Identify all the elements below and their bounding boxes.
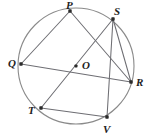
chord-P-Q xyxy=(21,11,70,64)
chord-S-T xyxy=(41,19,113,108)
point-label-p: P xyxy=(66,0,73,11)
vertex-dot-v xyxy=(105,115,108,118)
point-label-s: S xyxy=(114,6,120,17)
vertex-dot-s xyxy=(111,17,114,20)
geometry-canvas xyxy=(0,0,150,139)
point-label-q: Q xyxy=(8,58,16,69)
center-dot-o xyxy=(75,65,78,68)
chord-S-R xyxy=(113,19,131,82)
point-label-r: R xyxy=(136,77,143,88)
vertex-dot-t xyxy=(39,106,42,109)
chord-group xyxy=(21,11,131,117)
geometry-figure: PSQORTV xyxy=(0,0,150,139)
vertex-dot-q xyxy=(19,62,22,65)
point-label-t: T xyxy=(28,105,35,116)
chord-P-R xyxy=(70,11,131,82)
chord-T-V xyxy=(41,108,107,117)
point-label-o: O xyxy=(82,60,90,71)
point-label-v: V xyxy=(103,124,110,135)
vertex-dot-r xyxy=(129,80,132,83)
chord-S-V xyxy=(107,19,113,117)
